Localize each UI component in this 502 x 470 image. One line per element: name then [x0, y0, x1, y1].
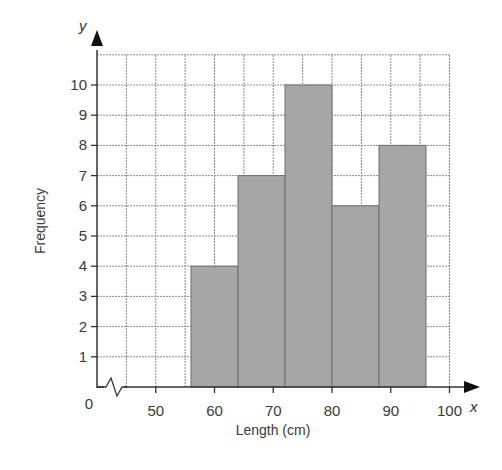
y-tick-labels: 12345678910	[70, 76, 97, 365]
x-axis-label: Length (cm)	[236, 422, 311, 438]
y-tick-label: 5	[79, 227, 87, 244]
x-axis-arrow-icon	[464, 381, 480, 393]
x-tick-label: 70	[265, 402, 282, 419]
y-tick-label: 6	[79, 197, 87, 214]
histogram-chart: 12345678910 05060708090100 y x Length (c…	[0, 0, 502, 470]
histogram-bar	[379, 145, 426, 387]
y-axis-label: Frequency	[32, 188, 48, 254]
x-tick-label: 60	[206, 402, 223, 419]
histogram-bar	[332, 206, 379, 387]
y-axis-arrow-icon	[91, 30, 103, 46]
x-tick-label: 0	[85, 395, 93, 412]
y-tick-label: 4	[79, 257, 87, 274]
y-tick-label: 10	[70, 76, 87, 93]
histogram-bar	[238, 176, 285, 387]
x-tick-label: 80	[324, 402, 341, 419]
y-tick-label: 9	[79, 106, 87, 123]
y-tick-label: 1	[79, 348, 87, 365]
y-axis-letter: y	[78, 17, 88, 34]
x-tick-label: 90	[382, 402, 399, 419]
x-tick-label: 50	[147, 402, 164, 419]
histogram-bar	[285, 85, 332, 387]
y-tick-label: 8	[79, 136, 87, 153]
x-tick-label: 100	[437, 402, 462, 419]
y-tick-label: 7	[79, 167, 87, 184]
histogram-bar	[191, 266, 238, 387]
x-tick-labels: 05060708090100	[85, 387, 462, 419]
x-axis-letter: x	[469, 398, 478, 415]
y-tick-label: 2	[79, 318, 87, 335]
y-tick-label: 3	[79, 287, 87, 304]
